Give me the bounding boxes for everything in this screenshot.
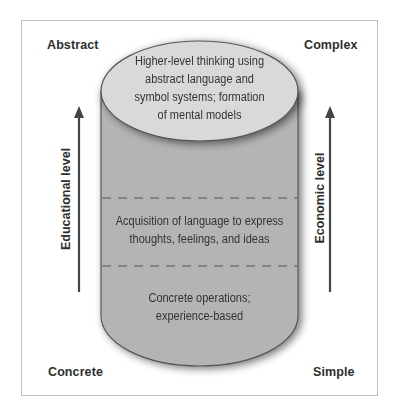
level-bottom-text: Concrete operations; experience-based [113, 289, 286, 325]
text-line: Acquisition of language to express [108, 212, 290, 230]
text-line: of mental models [113, 106, 286, 124]
level-middle-text: Acquisition of language to express thoug… [108, 212, 290, 248]
corner-abstract: Abstract [47, 38, 99, 52]
text-line: abstract language and [113, 70, 286, 88]
level-top-text: Higher-level thinking using abstract lan… [113, 52, 286, 124]
text-line: experience-based [113, 307, 286, 325]
educational-level-arrow-icon [74, 106, 84, 292]
axis-label-educational: Educational level [59, 150, 73, 250]
text-line: Concrete operations; [113, 289, 286, 307]
corner-complex: Complex [304, 38, 358, 52]
text-line: thoughts, feelings, and ideas [108, 230, 290, 248]
corner-concrete: Concrete [48, 365, 103, 379]
text-line: symbol systems; formation [113, 88, 286, 106]
axis-label-economic: Economic level [313, 148, 327, 248]
corner-simple: Simple [313, 365, 355, 379]
text-line: Higher-level thinking using [113, 52, 286, 70]
